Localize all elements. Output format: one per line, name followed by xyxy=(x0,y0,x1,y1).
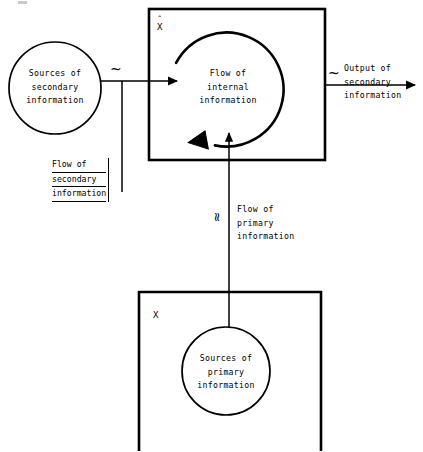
internal-flow-line-1: Flow of xyxy=(199,67,257,81)
primary-input-line-3: information xyxy=(237,230,295,244)
internal-flow-line-2: internal xyxy=(199,81,257,95)
secondary-output-tilde-icon: ~ xyxy=(328,66,340,80)
internal-loop-arrowhead xyxy=(188,128,212,149)
secondary-output-line-1: Output of xyxy=(344,62,402,76)
internal-flow-box-variable: ˆ X xyxy=(157,22,162,32)
secondary-input-line-3: information xyxy=(52,187,106,202)
secondary-sources-line-1: Sources of xyxy=(26,67,84,81)
primary-input-line-1: Flow of xyxy=(237,203,295,217)
primary-sources-line-1: Sources of xyxy=(197,352,255,366)
internal-flow-line-3: information xyxy=(199,94,257,108)
secondary-output-label: Output of secondary information xyxy=(344,62,402,103)
primary-sources-circle-label: Sources of primary information xyxy=(197,352,255,393)
primary-input-line-2: primary xyxy=(237,217,295,231)
secondary-sources-circle-label: Sources of secondary information xyxy=(26,67,84,108)
secondary-output-line-2: secondary xyxy=(344,76,402,90)
primary-input-label: Flow of primary information xyxy=(237,203,295,244)
secondary-sources-line-3: information xyxy=(26,94,84,108)
secondary-input-line-1: Flow of xyxy=(52,158,106,173)
primary-sources-box-variable: X xyxy=(153,310,158,320)
internal-flow-label: Flow of internal information xyxy=(199,67,257,108)
primary-sources-line-2: primary xyxy=(197,366,255,380)
secondary-input-tilde-icon: ~ xyxy=(110,62,122,76)
secondary-input-line-2: secondary xyxy=(52,173,106,188)
diagram-canvas: ˆ X X Sources of secondary information F… xyxy=(0,0,423,452)
secondary-sources-line-2: secondary xyxy=(26,81,84,95)
secondary-input-label: Flow of secondary information xyxy=(52,158,109,202)
primary-input-wave-icon: ≈ xyxy=(210,212,224,223)
secondary-output-line-3: information xyxy=(344,89,402,103)
circumflex-accent: ˆ xyxy=(157,16,162,25)
primary-sources-line-3: information xyxy=(197,379,255,393)
